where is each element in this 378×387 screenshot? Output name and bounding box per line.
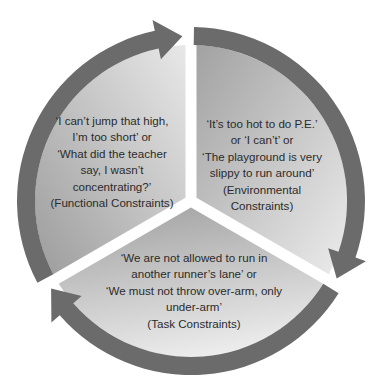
label-line: ‘What did the teacher (42, 146, 182, 162)
label-line: another runner’s lane’ or (94, 266, 294, 282)
task-constraints-label: ‘We are not allowed to run in another ru… (94, 250, 294, 332)
label-line: ‘We are not allowed to run in (94, 250, 294, 266)
label-line: ‘It’s too hot to do P.E.’ (197, 116, 327, 132)
label-line: or ‘I can’t’ or (197, 132, 327, 148)
label-line: Constraints) (197, 198, 327, 214)
label-line: I’m too short’ or (42, 129, 182, 145)
environmental-constraints-label: ‘It’s too hot to do P.E.’ or ‘I can’t’ o… (197, 116, 327, 214)
label-line: ‘I can’t jump that high, (42, 113, 182, 129)
label-line: concentrating?’ (42, 179, 182, 195)
label-line: slippy to run around’ (197, 165, 327, 181)
label-line: ‘The playground is very (197, 149, 327, 165)
label-line: (Task Constraints) (94, 316, 294, 332)
label-line: under-arm’ (94, 299, 294, 315)
label-line: say, I wasn’t (42, 162, 182, 178)
label-line: (Functional Constraints) (42, 195, 182, 211)
label-line: ‘We must not throw over-arm, only (94, 283, 294, 299)
label-line: (Environmental (197, 182, 327, 198)
functional-constraints-label: ‘I can’t jump that high, I’m too short’ … (42, 113, 182, 211)
